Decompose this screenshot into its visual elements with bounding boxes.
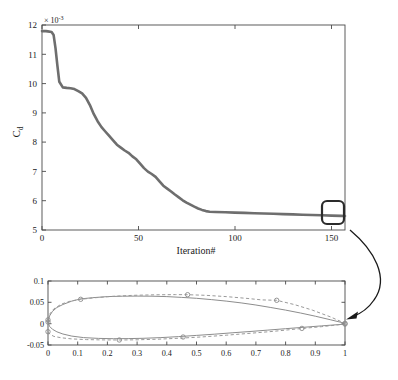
annotation-arrow [350, 230, 380, 317]
af-x-tick-02: 0.2 [102, 349, 112, 358]
af-x-tick-05: 0.5 [191, 349, 201, 358]
airfoil-plot: -0.05 0 0.05 0.1 [27, 277, 347, 358]
optimized-airfoil-upper-curve [48, 295, 345, 324]
y-tick-6: 6 [33, 196, 38, 206]
x-tick-0: 0 [40, 233, 45, 243]
af-x-tick-01: 0.1 [73, 349, 83, 358]
x-tick-150: 150 [325, 233, 339, 243]
convergence-y-ticklabels: 5 6 7 8 9 10 11 12 [28, 20, 38, 235]
airfoil-control-point-markers [46, 293, 347, 343]
af-x-tick-07: 0.7 [251, 349, 261, 358]
convergence-y-ticks [42, 25, 46, 230]
y-tick-10: 10 [28, 79, 38, 89]
x-axis-title: Iteration# [177, 245, 216, 256]
marker-lower-2 [181, 335, 185, 339]
af-y-tick-0: 0 [40, 320, 44, 329]
af-x-tick-1: 1 [343, 349, 347, 358]
af-x-tick-09: 0.9 [310, 349, 320, 358]
af-y-tick-neg005: -0.05 [27, 341, 44, 350]
x-tick-50: 50 [134, 233, 144, 243]
af-x-tick-04: 0.4 [162, 349, 172, 358]
figure-svg: × 10-3 5 6 7 8 9 10 1 [0, 0, 398, 380]
y-tick-5: 5 [33, 225, 38, 235]
svg-text:Cd: Cd [10, 126, 25, 137]
convergence-axes-frame [42, 25, 345, 230]
airfoil-x-ticklabels: 0 0.1 0.2 0.3 0.4 0.5 0.6 0.7 0.8 0.9 1 [46, 349, 347, 358]
af-x-tick-03: 0.3 [132, 349, 142, 358]
y-axis-exponent-label: × 10-3 [44, 15, 64, 26]
af-y-tick-01: 0.1 [34, 277, 44, 286]
y-axis-title: Cd [10, 126, 25, 137]
y-tick-12: 12 [28, 20, 37, 30]
convergence-plot: × 10-3 5 6 7 8 9 10 1 [10, 15, 380, 320]
af-x-tick-08: 0.8 [280, 349, 290, 358]
y-tick-9: 9 [33, 108, 38, 118]
figure-container: × 10-3 5 6 7 8 9 10 1 [0, 0, 398, 380]
y-tick-8: 8 [33, 137, 38, 147]
x-tick-100: 100 [228, 233, 242, 243]
y-tick-7: 7 [33, 167, 38, 177]
zoom-highlight-box [322, 201, 344, 224]
convergence-x-ticks [42, 25, 332, 230]
af-x-tick-0: 0 [46, 349, 50, 358]
af-x-tick-06: 0.6 [221, 349, 231, 358]
baseline-airfoil-upper-curve [48, 296, 345, 323]
convergence-curve [42, 31, 345, 216]
y-tick-11: 11 [28, 50, 37, 60]
annotation-arrow-head [346, 312, 358, 320]
convergence-x-ticklabels: 0 50 100 150 [40, 233, 339, 243]
airfoil-y-ticklabels: -0.05 0 0.05 0.1 [27, 277, 44, 350]
af-y-tick-005: 0.05 [30, 298, 44, 307]
